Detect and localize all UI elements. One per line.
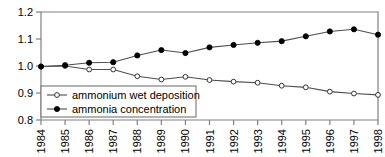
data-point-marker bbox=[159, 47, 164, 52]
data-point-marker bbox=[255, 80, 260, 85]
data-point-marker bbox=[255, 40, 260, 45]
data-point-marker bbox=[135, 53, 140, 58]
y-axis-tick-label: 1.2 bbox=[18, 6, 33, 18]
x-axis-tick-label: 1987 bbox=[107, 129, 119, 153]
data-point-marker bbox=[352, 91, 357, 96]
y-axis-tick-label: 0.9 bbox=[18, 87, 33, 99]
legend-marker-filled-circle bbox=[54, 106, 59, 111]
data-point-marker bbox=[207, 78, 212, 83]
x-axis-tick-label: 1995 bbox=[300, 129, 312, 153]
data-point-marker bbox=[327, 89, 332, 94]
data-point-marker bbox=[279, 39, 284, 44]
x-axis-tick-label: 1990 bbox=[179, 129, 191, 153]
x-axis-tick-label: 1984 bbox=[35, 129, 47, 153]
y-axis-tick-label: 1.1 bbox=[18, 33, 33, 45]
x-axis-tick-label: 1986 bbox=[83, 129, 95, 153]
x-axis-tick-label: 1985 bbox=[59, 129, 71, 153]
data-point-marker bbox=[231, 79, 236, 84]
data-point-marker bbox=[303, 34, 308, 39]
data-point-marker bbox=[375, 32, 380, 37]
data-point-marker bbox=[279, 83, 284, 88]
data-point-marker bbox=[87, 60, 92, 65]
legend-marker-open-circle bbox=[55, 93, 60, 98]
y-axis-tick-label: 0.8 bbox=[18, 114, 33, 126]
data-point-marker bbox=[159, 77, 164, 82]
x-axis-tick-label: 1992 bbox=[228, 129, 240, 153]
data-point-marker bbox=[231, 42, 236, 47]
x-axis-tick-label: 1988 bbox=[131, 129, 143, 153]
x-axis-tick-label: 1991 bbox=[204, 129, 216, 153]
data-point-marker bbox=[207, 45, 212, 50]
x-axis-tick-label: 1993 bbox=[252, 129, 264, 153]
data-point-marker bbox=[111, 60, 116, 65]
data-point-marker bbox=[327, 29, 332, 34]
data-point-marker bbox=[38, 64, 43, 69]
x-axis-tick-labels: 1984198519861987198819891990199119921993… bbox=[35, 129, 384, 153]
chart-legend: ammonium wet depositionammonia concentra… bbox=[41, 86, 200, 117]
data-point-marker bbox=[376, 92, 381, 97]
legend-entry-label: ammonia concentration bbox=[72, 103, 186, 115]
y-axis-tick-label: 1.0 bbox=[18, 60, 33, 72]
line-chart: 0.80.91.01.11.2 198419851986198719881989… bbox=[0, 0, 385, 157]
data-point-marker bbox=[303, 85, 308, 90]
legend-entry-label: ammonium wet deposition bbox=[72, 89, 200, 101]
data-point-marker bbox=[351, 27, 356, 32]
data-point-marker bbox=[135, 74, 140, 79]
data-point-marker bbox=[62, 63, 67, 68]
chart-container: 0.80.91.01.11.2 198419851986198719881989… bbox=[0, 0, 385, 157]
data-point-marker bbox=[183, 74, 188, 79]
data-point-marker bbox=[87, 67, 92, 72]
x-axis-tick-label: 1996 bbox=[324, 129, 336, 153]
data-point-marker bbox=[183, 50, 188, 55]
x-axis-tick-label: 1989 bbox=[155, 129, 167, 153]
x-axis-tick-label: 1994 bbox=[276, 129, 288, 153]
x-axis-tick-label: 1997 bbox=[348, 129, 360, 153]
x-axis-tick-label: 1998 bbox=[372, 129, 384, 153]
data-point-marker bbox=[111, 67, 116, 72]
